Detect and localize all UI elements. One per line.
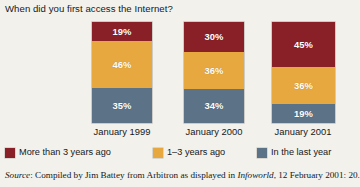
bar-segment-1-3-years-ago[interactable]: 46% (92, 41, 152, 87)
legend-swatch-icon (5, 148, 15, 158)
legend-swatch-icon (153, 148, 163, 158)
x-axis-tick-labels: January 1999 January 2000 January 2001 (0, 126, 351, 140)
bar-segment-value: 30% (204, 32, 223, 41)
legend-label: 1–3 years ago (167, 147, 225, 158)
bar-segment-value: 35% (112, 101, 131, 110)
stacked-bar[interactable]: 19% 46% 35% (92, 22, 152, 123)
bar-segment-value: 36% (204, 66, 223, 75)
bar-segment-1-3-years-ago[interactable]: 36% (184, 52, 244, 88)
bar-group-january-2001: 45% 36% 19% (272, 22, 335, 123)
legend-item-in-the-last-year[interactable]: In the last year (257, 146, 331, 159)
bar-segment-value: 36% (294, 81, 313, 90)
source-prefix: Source (5, 170, 30, 180)
stacked-bar[interactable]: 45% 36% 19% (272, 22, 335, 123)
source-text-after: , 12 February 2001: 20. (274, 170, 360, 180)
legend-label: In the last year (271, 147, 331, 158)
stacked-bar[interactable]: 30% 36% 34% (184, 22, 244, 123)
legend-swatch-icon (257, 148, 267, 158)
bar-segment-in-the-last-year[interactable]: 35% (92, 88, 152, 123)
legend-item-1-3-years-ago[interactable]: 1–3 years ago (153, 146, 225, 159)
bar-group-january-2000: 30% 36% 34% (184, 22, 244, 123)
legend-label: More than 3 years ago (19, 147, 111, 158)
bar-segment-value: 45% (294, 40, 313, 49)
bar-segment-1-3-years-ago[interactable]: 36% (272, 67, 335, 103)
bar-segment-value: 19% (112, 27, 131, 36)
legend-item-more-than-3-years-ago[interactable]: More than 3 years ago (5, 146, 111, 159)
bar-segment-value: 34% (204, 101, 223, 110)
bar-segment-more-than-3-years-ago[interactable]: 30% (184, 22, 244, 52)
source-note: Source: Compiled by Jim Battey from Arbi… (5, 169, 349, 181)
bar-segment-value: 19% (294, 109, 313, 118)
bar-segment-more-than-3-years-ago[interactable]: 19% (92, 22, 152, 41)
x-axis-tick-label: January 2000 (174, 126, 254, 138)
plot-area: 19% 46% 35% 30% 36% 34% (0, 22, 351, 123)
x-axis-tick-label: January 1999 (82, 126, 162, 138)
bar-segment-in-the-last-year[interactable]: 19% (272, 104, 335, 123)
bar-segment-in-the-last-year[interactable]: 34% (184, 89, 244, 123)
source-text-before: : Compiled by Jim Battey from Arbitron a… (30, 170, 237, 180)
bar-segment-value: 46% (112, 60, 131, 69)
source-publication-title: Infoworld (237, 170, 273, 180)
x-axis-tick-label: January 2001 (263, 126, 343, 138)
bar-segment-more-than-3-years-ago[interactable]: 45% (272, 22, 335, 67)
chart-legend: More than 3 years ago 1–3 years ago In t… (5, 146, 346, 160)
bar-group-january-1999: 19% 46% 35% (92, 22, 152, 123)
chart-title: When did you first access the Internet? (5, 3, 173, 15)
